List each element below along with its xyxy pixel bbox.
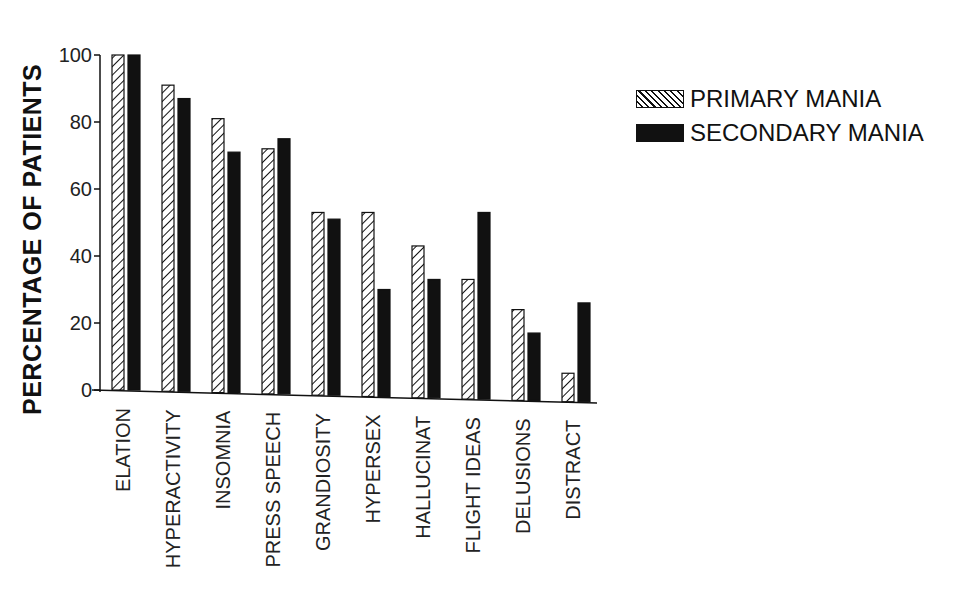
bar-primary [512, 310, 524, 401]
y-tick-label: 100 [59, 44, 92, 66]
bar-secondary [428, 279, 440, 397]
x-tick-label: INSOMNIA [212, 410, 234, 510]
legend-label-primary: PRIMARY MANIA [690, 85, 881, 113]
bar-secondary [478, 212, 490, 399]
solid-swatch-icon [636, 124, 684, 142]
bar-secondary [278, 139, 290, 394]
bar-secondary [128, 55, 140, 390]
x-tick-label: FLIGHT IDEAS [462, 417, 484, 553]
bar-primary [462, 279, 474, 399]
legend-label-secondary: SECONDARY MANIA [690, 119, 924, 147]
y-tick-label: 0 [81, 379, 92, 401]
x-tick-label: GRANDIOSITY [312, 413, 334, 551]
bar-primary [162, 85, 174, 391]
bar-secondary [378, 290, 390, 397]
bar-secondary [578, 303, 590, 402]
bar-primary [262, 149, 274, 394]
x-tick-label: ELATION [112, 408, 134, 492]
bar-secondary [528, 333, 540, 400]
bar-primary [362, 212, 374, 396]
y-tick-label: 80 [70, 111, 92, 133]
x-tick-label: HYPERSEX [362, 415, 384, 524]
y-tick-label: 40 [70, 245, 92, 267]
x-tick-label: DELUSIONS [512, 418, 534, 534]
x-tick-label: PRESS SPEECH [262, 412, 284, 568]
x-tick-label: DISTRACT [562, 420, 584, 520]
x-tick-label: HYPERACTIVITY [162, 409, 184, 568]
bar-primary [562, 373, 574, 401]
x-axis-labels: ELATIONHYPERACTIVITYINSOMNIAPRESS SPEECH… [112, 408, 584, 568]
bar-secondary [328, 219, 340, 395]
legend-item-secondary: SECONDARY MANIA [636, 116, 924, 150]
hatched-swatch-icon [636, 90, 684, 108]
bar-primary [312, 212, 324, 395]
legend: PRIMARY MANIA SECONDARY MANIA [636, 82, 924, 150]
x-tick-label: HALLUCINAT [412, 416, 434, 539]
y-axis-title: PERCENTAGE OF PATIENTS [18, 64, 47, 415]
chart-bars [112, 55, 590, 402]
y-tick-label: 60 [70, 178, 92, 200]
legend-item-primary: PRIMARY MANIA [636, 82, 924, 116]
bar-primary [112, 55, 124, 390]
y-tick-label: 20 [70, 312, 92, 334]
bar-secondary [178, 99, 190, 392]
bar-secondary [228, 152, 240, 392]
bar-primary [212, 119, 224, 393]
bar-primary [412, 246, 424, 398]
